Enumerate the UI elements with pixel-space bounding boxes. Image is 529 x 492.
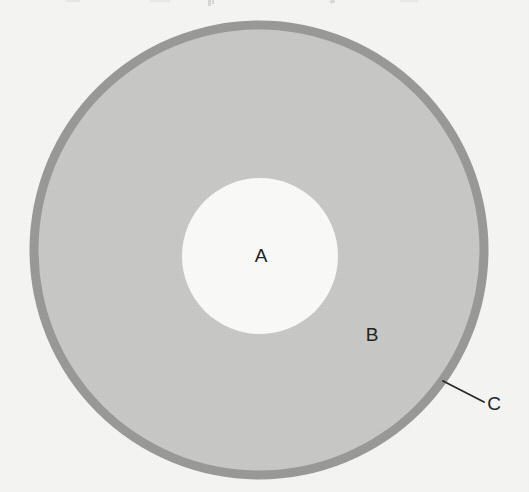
label-c: C xyxy=(487,393,501,414)
leader-line-c xyxy=(443,381,484,402)
figure-root: A B C xyxy=(0,0,529,492)
label-a: A xyxy=(255,245,268,266)
concentric-circle-diagram: A B C xyxy=(0,0,529,492)
label-b: B xyxy=(366,324,379,345)
